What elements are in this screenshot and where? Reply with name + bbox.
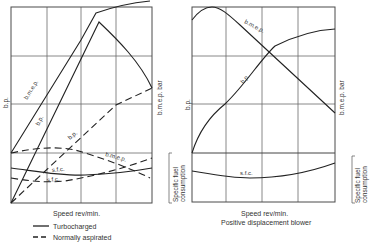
right-bmep-curve (192, 7, 335, 113)
left-x-label: Speed rev/min. (53, 210, 100, 218)
label-sfc-right: s.f.c. (240, 170, 253, 176)
left-bmep-na-curve (11, 148, 150, 178)
left-sfc-label-line2: consumption (179, 165, 187, 202)
right-x-label: Speed rev/min. (241, 210, 288, 218)
legend: Turbocharged Normally aspirated (33, 223, 111, 242)
right-y-label-bp: b.p. (184, 99, 192, 110)
left-y-label-bp: b.p. (2, 97, 10, 108)
label-bp-turbo: b.p. (35, 115, 45, 127)
left-chart: b.m.e.p. b.p. b.p. b.m.e.p. s.f.c. s.f.c… (2, 1, 187, 242)
right-y2-label-bmep: b.m.e.p. bar (338, 79, 346, 115)
left-y2-label-bmep: b.m.e.p. bar (156, 79, 164, 115)
label-sfc-turbo: s.f.c. (52, 166, 65, 173)
right-caption: Positive displacement blower (221, 219, 312, 227)
label-bp-right: b.p. (239, 73, 250, 85)
right-bp-curve (192, 29, 335, 153)
right-sfc-label-line2: consumption (361, 166, 369, 203)
label-bp-na: b.p. (67, 130, 79, 141)
label-sfc-na: s.f.c. (47, 176, 60, 183)
right-chart: b.m.e.p. b.p. s.f.c. b.p. b.m.e.p. bar S… (184, 7, 369, 227)
label-bmep-turbo: b.m.e.p. (23, 79, 40, 101)
left-bp-turbo-curve (11, 22, 152, 203)
right-sfc-curve (192, 163, 335, 178)
right-grid (192, 7, 335, 202)
legend-normally-aspirated: Normally aspirated (53, 234, 111, 242)
legend-turbocharged: Turbocharged (53, 223, 96, 231)
left-bmep-turbo-curve (11, 1, 150, 153)
engine-performance-figure: b.m.e.p. b.p. b.p. b.m.e.p. s.f.c. s.f.c… (0, 0, 374, 245)
left-bp-na-curve (11, 88, 152, 203)
left-grid (11, 7, 152, 203)
